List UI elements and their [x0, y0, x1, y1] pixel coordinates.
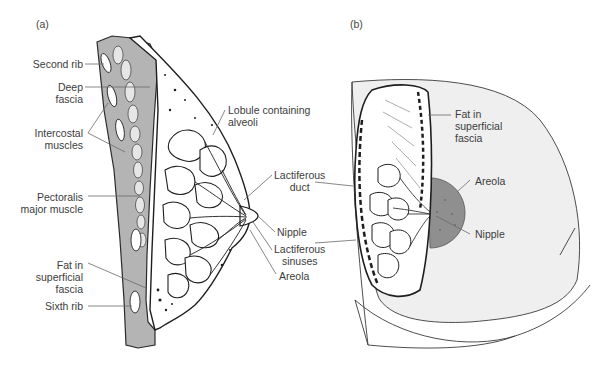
label-areola-b: Areola	[475, 175, 505, 187]
label-lobule: Lobule containing alveoli	[228, 104, 310, 128]
label-pectoralis-major: Pectoralis major muscle	[21, 191, 83, 215]
panel-a-tag: (a)	[36, 18, 49, 30]
label-intercostal-muscles: Intercostal muscles	[35, 127, 83, 151]
label-nipple-b: Nipple	[475, 228, 505, 240]
label-sixth-rib: Sixth rib	[45, 300, 83, 312]
label-lactiferous-sinuses: Lactiferous sinuses	[274, 243, 325, 267]
label-second-rib: Second rib	[33, 58, 83, 70]
label-areola-a: Areola	[279, 270, 309, 282]
label-nipple-a: Nipple	[277, 226, 307, 238]
label-lactiferous-duct: Lactiferous duct	[274, 169, 325, 193]
label-fat-superficial-fascia-a: Fat in superficial fascia	[36, 259, 83, 295]
label-deep-fascia: Deep fascia	[56, 81, 83, 105]
label-fat-superficial-fascia-b: Fat in superficial fascia	[455, 108, 502, 144]
panel-b-tag: (b)	[350, 18, 363, 30]
panel-a-drawing	[97, 36, 258, 348]
